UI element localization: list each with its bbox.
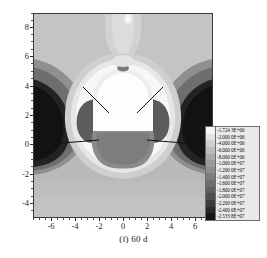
legend-value: -2.000 0E+06 [217,134,259,141]
y-tick-label-6: 6 [7,52,29,61]
x-tick-label-m2: -2 [88,222,110,231]
x-tick-label-4: 4 [160,222,182,231]
legend-value: -8.000 0E+06 [217,154,259,161]
contour-plot [33,13,213,218]
legend-value: -1.800 0E+07 [217,187,259,194]
legend-value: -2.533 8E+07 [217,213,259,220]
x-tick-label-6: 6 [184,222,206,231]
contour-svg [33,13,213,218]
legend-swatch [206,127,215,134]
contour-legend: -1.724 3E+06-2.000 0E+06-4.000 0E+06-6.0… [205,126,260,221]
legend-colorbar [206,127,216,220]
figure-caption: (f) 60 d [0,234,267,244]
y-tick-label-8: 8 [7,23,29,32]
legend-swatch [206,180,215,187]
legend-swatch [206,213,215,220]
legend-swatch [206,193,215,200]
figure-container: 8 6 4 2 0 -2 -4 [0,0,267,258]
y-tick-label-4: 4 [7,82,29,91]
legend-value: -4.000 0E+06 [217,140,259,147]
x-tick-label-m6: -6 [40,222,62,231]
legend-value: -2.000 0E+07 [217,193,259,200]
legend-swatch [206,140,215,147]
legend-value: -1.400 0E+07 [217,173,259,180]
x-tick-label-2: 2 [136,222,158,231]
y-tick-label-0: 0 [7,140,29,149]
legend-value: -2.200 0E+07 [217,200,259,207]
legend-value: -1.724 3E+06 [217,127,259,134]
legend-swatch [206,167,215,174]
legend-swatch [206,147,215,154]
legend-swatch [206,187,215,194]
legend-value: -2.400 0E+07 [217,207,259,214]
legend-swatch [206,134,215,141]
legend-swatch [206,207,215,214]
legend-value: -6.000 0E+06 [217,147,259,154]
x-tick-label-0: 0 [112,222,134,231]
legend-value: -1.600 0E+07 [217,180,259,187]
legend-value-list: -1.724 3E+06-2.000 0E+06-4.000 0E+06-6.0… [216,127,259,220]
y-tick-label-m2: -2 [7,170,29,179]
y-tick-label-2: 2 [7,111,29,120]
legend-swatch [206,173,215,180]
legend-swatch [206,154,215,161]
legend-value: -1.000 0E+07 [217,160,259,167]
legend-value: -1.200 0E+07 [217,167,259,174]
x-tick-label-m4: -4 [64,222,86,231]
legend-swatch [206,160,215,167]
y-tick-label-m4: -4 [7,199,29,208]
legend-swatch [206,200,215,207]
